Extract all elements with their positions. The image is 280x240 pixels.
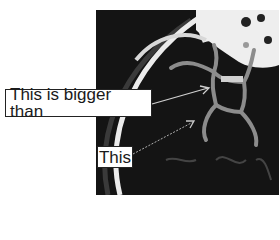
annotation-label-bigger: This is bigger than (5, 89, 152, 117)
arrow-bigger (152, 88, 208, 104)
arrow-smaller (133, 122, 193, 154)
arrowhead-smaller-icon (186, 121, 194, 128)
annotation-label-smaller: This (97, 146, 133, 168)
